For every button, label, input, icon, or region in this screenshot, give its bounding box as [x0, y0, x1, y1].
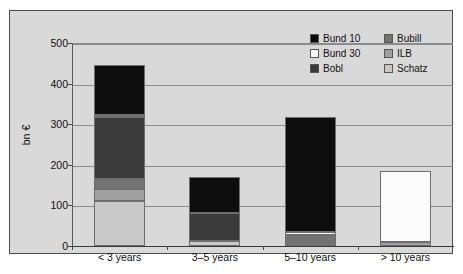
- legend-entry[interactable]: Bund 10: [310, 31, 382, 46]
- y-axis-tick-label: 100: [28, 200, 68, 210]
- bar-segment: [94, 179, 145, 189]
- legend-column-left: Bund 10Bund 30Bobl: [310, 31, 382, 76]
- bar-stack: [189, 11, 240, 246]
- x-axis-tick-mark: [263, 246, 264, 250]
- bar-segment: [285, 117, 336, 232]
- legend-label: Bund 10: [323, 33, 360, 44]
- bar-segment: [189, 241, 240, 246]
- y-axis-tick-label: 300: [28, 119, 68, 129]
- bar-segment: [94, 65, 145, 116]
- legend-swatch: [384, 64, 393, 73]
- y-axis-tick-label: 400: [28, 79, 68, 89]
- y-axis-tick-mark: [68, 205, 72, 206]
- legend-entry[interactable]: ILB: [384, 46, 456, 61]
- bar-segment: [94, 189, 145, 201]
- legend-swatch: [310, 49, 319, 58]
- bar-segment: [380, 242, 431, 246]
- x-axis-tick-label: < 3 years: [72, 251, 167, 263]
- legend-label: Bund 30: [323, 48, 360, 59]
- legend-entry[interactable]: Bubill: [384, 31, 456, 46]
- legend-swatch: [384, 49, 393, 58]
- chart-figure: 0100200300400500 bn € < 3 years3–5 years…: [0, 0, 463, 274]
- y-axis-tick-label: 200: [28, 160, 68, 170]
- chart-plate: 0100200300400500 bn € < 3 years3–5 years…: [9, 10, 453, 254]
- legend-entry[interactable]: Bund 30: [310, 46, 382, 61]
- bar-segment: [285, 232, 336, 234]
- bar-segment: [285, 235, 336, 246]
- legend-label: Schatz: [397, 63, 428, 74]
- y-axis-tick-mark: [68, 43, 72, 44]
- y-axis-tick-mark: [68, 84, 72, 85]
- bar-segment: [94, 115, 145, 117]
- x-axis-tick-label: 3–5 years: [167, 251, 262, 263]
- legend-entry[interactable]: Schatz: [384, 61, 456, 76]
- legend-swatch: [310, 64, 319, 73]
- legend-label: Bubill: [397, 33, 421, 44]
- chart-legend: Bund 10Bund 30Bobl BubillILBSchatz: [306, 31, 452, 78]
- bar-stack: [94, 11, 145, 246]
- y-axis-tick-label: 500: [28, 38, 68, 48]
- y-axis-tick-mark: [68, 124, 72, 125]
- x-axis-tick-mark: [72, 246, 73, 250]
- x-axis-tick-mark: [167, 246, 168, 250]
- x-axis-tick-mark: [452, 246, 453, 250]
- legend-swatch: [310, 34, 319, 43]
- x-axis-tick-label: > 10 years: [358, 251, 453, 263]
- bar-segment: [189, 177, 240, 213]
- y-axis-tick-mark: [68, 165, 72, 166]
- x-axis-tick-label: 5–10 years: [263, 251, 358, 263]
- x-axis-tick-mark: [358, 246, 359, 250]
- bar-segment: [94, 117, 145, 179]
- legend-label: ILB: [397, 48, 412, 59]
- legend-column-right: BubillILBSchatz: [384, 31, 456, 76]
- y-axis-title: bn €: [20, 105, 32, 165]
- bar-segment: [189, 213, 240, 241]
- legend-swatch: [384, 34, 393, 43]
- bar-segment: [94, 201, 145, 246]
- y-axis-tick-label: 0: [28, 241, 68, 251]
- legend-label: Bobl: [323, 63, 343, 74]
- bar-segment: [380, 171, 431, 242]
- legend-entry[interactable]: Bobl: [310, 61, 382, 76]
